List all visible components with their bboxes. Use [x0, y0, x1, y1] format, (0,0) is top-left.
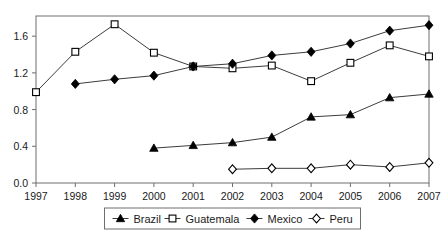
x-tick-label: 1999	[103, 190, 127, 202]
x-tick-label: 2007	[417, 190, 441, 202]
data-point	[425, 90, 433, 97]
data-point	[346, 110, 354, 117]
marker-filled-diamond	[307, 47, 315, 56]
data-point	[111, 21, 118, 28]
marker-open-square	[151, 49, 158, 56]
marker-filled-diamond	[150, 71, 158, 80]
marker-filled-diamond	[111, 75, 119, 84]
marker-open-square	[386, 42, 393, 49]
marker-open-square	[169, 215, 176, 222]
marker-filled-diamond	[346, 39, 354, 48]
x-tick-label: 2006	[378, 190, 402, 202]
plot-border	[36, 16, 429, 183]
data-point	[386, 163, 394, 172]
legend-label: Brazil	[134, 213, 162, 225]
marker-open-diamond	[268, 164, 276, 173]
marker-filled-diamond	[268, 51, 276, 60]
data-point	[268, 62, 275, 69]
data-point	[229, 165, 237, 174]
data-point	[150, 71, 158, 80]
y-tick-label: 0.8	[13, 104, 28, 116]
marker-filled-triangle	[425, 90, 433, 97]
marker-open-square	[33, 89, 40, 96]
y-tick-label: 1.2	[13, 67, 28, 79]
legend-label: Peru	[330, 213, 353, 225]
series-mexico	[71, 21, 433, 89]
data-point	[386, 26, 394, 35]
marker-open-diamond	[307, 164, 315, 173]
marker-open-square	[347, 59, 354, 66]
series-peru	[229, 158, 433, 173]
data-point	[169, 215, 176, 222]
data-point	[71, 79, 79, 88]
y-axis: 0.00.40.81.21.6	[13, 30, 36, 189]
x-tick-label: 2002	[221, 190, 245, 202]
marker-filled-diamond	[386, 26, 394, 35]
data-point	[425, 21, 433, 30]
data-point	[111, 75, 119, 84]
x-axis: 1997199819992000200120022003200420052006…	[24, 183, 441, 202]
line-chart: 0.00.40.81.21.61997199819992000200120022…	[0, 0, 442, 238]
marker-open-diamond	[386, 163, 394, 172]
y-tick-label: 0.0	[13, 177, 28, 189]
data-point	[307, 47, 315, 56]
plot-frame	[36, 16, 429, 183]
marker-open-square	[308, 78, 315, 85]
x-tick-label: 2005	[339, 190, 363, 202]
series-line	[233, 163, 430, 169]
x-tick-label: 1997	[24, 190, 48, 202]
data-point	[72, 48, 79, 55]
marker-open-square	[111, 21, 118, 28]
y-tick-label: 0.4	[13, 140, 28, 152]
marker-open-diamond	[229, 165, 237, 174]
marker-open-square	[426, 53, 433, 60]
x-tick-label: 2003	[260, 190, 284, 202]
data-point	[425, 158, 433, 167]
chart-legend: BrazilGuatemalaMexicoPeru	[105, 208, 361, 229]
data-point	[268, 164, 276, 173]
data-point	[346, 39, 354, 48]
y-tick-label: 1.6	[13, 30, 28, 42]
x-tick-label: 2004	[299, 190, 323, 202]
data-point	[426, 53, 433, 60]
marker-open-square	[72, 48, 79, 55]
series-guatemala	[33, 21, 433, 96]
marker-filled-diamond	[425, 21, 433, 30]
legend-item-mexico: Mexico	[247, 213, 303, 225]
x-tick-label: 1998	[64, 190, 88, 202]
marker-open-diamond	[347, 160, 355, 169]
data-point	[33, 89, 40, 96]
marker-filled-diamond	[71, 79, 79, 88]
series-brazil	[150, 90, 434, 152]
data-point	[308, 78, 315, 85]
legend-label: Guatemala	[186, 213, 241, 225]
data-point	[386, 42, 393, 49]
legend-label: Mexico	[268, 213, 303, 225]
data-point	[347, 59, 354, 66]
marker-filled-triangle	[346, 110, 354, 117]
marker-filled-triangle	[268, 133, 276, 140]
data-point	[268, 133, 276, 140]
series-line	[154, 94, 429, 148]
marker-open-square	[268, 62, 275, 69]
data-point	[268, 51, 276, 60]
x-tick-label: 2000	[142, 190, 166, 202]
data-point	[307, 164, 315, 173]
chart-canvas: 0.00.40.81.21.61997199819992000200120022…	[0, 0, 442, 238]
data-point	[151, 49, 158, 56]
x-tick-label: 2001	[182, 190, 206, 202]
data-point	[347, 160, 355, 169]
marker-open-diamond	[425, 158, 433, 167]
